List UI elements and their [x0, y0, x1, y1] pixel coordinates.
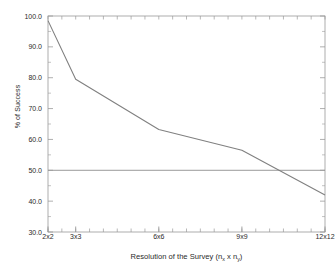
- x-axis-title-sub-y: y: [237, 256, 240, 262]
- y-axis-title: % of Success: [14, 62, 21, 152]
- x-axis-title-middle: x n: [225, 252, 237, 261]
- x-axis-title-suffix: ): [240, 252, 243, 261]
- y-tick-label: 50.0: [8, 167, 42, 174]
- x-tick-label: 2x2: [42, 233, 53, 240]
- x-axis-title: Resolution of the Survey (nx x ny): [48, 252, 325, 261]
- plot-frame: [48, 16, 325, 232]
- y-tick-label: 100.0: [8, 13, 42, 20]
- y-axis-tick-labels: 100.090.080.070.060.050.040.030.0: [6, 0, 42, 273]
- x-tick-label: 6x6: [153, 233, 164, 240]
- y-tick-label: 30.0: [8, 229, 42, 236]
- data-series-line: [48, 21, 325, 195]
- y-tick-label: 90.0: [8, 43, 42, 50]
- x-tick-label: 3x3: [70, 233, 81, 240]
- x-tick-label: 12x12: [315, 233, 334, 240]
- x-axis-title-prefix: Resolution of the Survey (n: [131, 252, 223, 261]
- y-tick-label: 40.0: [8, 198, 42, 205]
- x-axis-title-sub-x: x: [222, 256, 225, 262]
- x-tick-label: 9x9: [236, 233, 247, 240]
